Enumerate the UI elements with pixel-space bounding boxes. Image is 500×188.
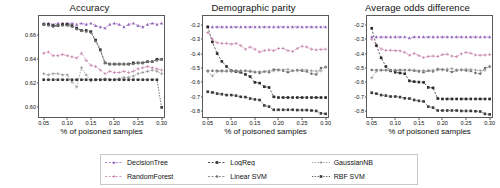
x-axis-tick-mark: [371, 117, 372, 120]
legend-item-linear-svm[interactable]: Linear SVM: [207, 173, 310, 180]
legend-marker-icon: [207, 173, 227, 180]
legend-marker-icon: [104, 159, 124, 166]
y-axis-tick-mark: [37, 83, 40, 84]
y-axis-tick-label: -0.8: [190, 108, 200, 114]
chart-title: Demographic parity: [172, 2, 335, 13]
legend-label: LogReg: [230, 159, 255, 166]
y-axis-tick-mark: [365, 111, 368, 112]
chart-panel-average-odds-difference: Average odds difference -0.2-0.3-0.4-0.5…: [336, 0, 499, 150]
chart-panel-demographic-parity: Demographic parity -0.2-0.3-0.4-0.5-0.6-…: [172, 0, 335, 150]
x-axis-tick-label: 0.30: [484, 120, 495, 126]
x-axis-tick-mark: [43, 117, 44, 120]
x-axis-tick-mark: [207, 117, 208, 120]
x-axis-tick-mark: [231, 117, 232, 120]
y-axis-tick-label: -0.4: [190, 51, 200, 57]
legend-item-gaussiannb[interactable]: GaussianNB: [311, 159, 414, 166]
y-axis-tick-label: -0.6: [354, 79, 364, 85]
series-line-randomforest: [372, 39, 490, 57]
series-layer: [367, 16, 492, 117]
x-axis-tick-label: 0.15: [249, 120, 260, 126]
y-axis-tick-mark: [365, 39, 368, 40]
x-axis-tick-label: 0.15: [413, 120, 424, 126]
y-axis-tick-label: -0.5: [354, 65, 364, 71]
y-axis-tick-mark: [365, 82, 368, 83]
x-axis-tick-label: 0.25: [297, 120, 308, 126]
legend-item-randomforest[interactable]: RandomForest: [104, 173, 207, 180]
y-axis-tick-mark: [365, 53, 368, 54]
axes-decorations: [39, 16, 164, 117]
series-layer: [39, 16, 164, 117]
x-axis-tick-label: 0.30: [320, 120, 331, 126]
x-axis-tick-label: 0.25: [133, 120, 144, 126]
series-line-gaussiannb: [44, 68, 162, 87]
legend-item-logreg[interactable]: LogReg: [207, 159, 310, 166]
plot-area: -0.2-0.3-0.4-0.5-0.6-0.7-0.80.050.100.15…: [202, 15, 329, 118]
series-layer: [203, 16, 328, 117]
y-axis-tick-label: -0.5: [190, 65, 200, 71]
legend-label: RandomForest: [127, 173, 173, 180]
series-line-randomforest: [208, 33, 326, 52]
series-line-rbf-svm: [44, 80, 162, 108]
legend-item-decisiontree[interactable]: DecisionTree: [104, 159, 207, 166]
x-axis-tick-mark: [489, 117, 490, 120]
x-axis-tick-mark: [395, 117, 396, 120]
x-axis-tick-label: 0.20: [437, 120, 448, 126]
x-axis-tick-mark: [278, 117, 279, 120]
plot-area: 0.600.620.640.660.050.100.150.200.250.30: [38, 15, 165, 118]
x-axis-tick-mark: [90, 117, 91, 120]
legend-marker-icon: [104, 173, 124, 180]
x-axis-tick-mark: [114, 117, 115, 120]
y-axis-tick-mark: [201, 39, 204, 40]
y-axis-tick-label: 0.66: [25, 32, 36, 38]
x-axis-tick-mark: [302, 117, 303, 120]
legend-item-rbf-svm[interactable]: RBF SVM: [311, 173, 414, 180]
series-line-logreg: [44, 24, 162, 64]
legend-label: Linear SVM: [230, 173, 267, 180]
legend-label: GaussianNB: [334, 159, 373, 166]
x-axis-tick-mark: [138, 117, 139, 120]
x-axis-tick-label: 0.30: [156, 120, 167, 126]
legend-marker-icon: [207, 159, 227, 166]
chart-title: Average odds difference: [336, 2, 499, 13]
x-axis-tick-mark: [161, 117, 162, 120]
y-axis-tick-mark: [365, 24, 368, 25]
legend-marker-icon: [311, 173, 331, 180]
y-axis-tick-label: -0.6: [190, 79, 200, 85]
x-axis-tick-label: 0.05: [202, 120, 213, 126]
y-axis-tick-label: 0.62: [25, 80, 36, 86]
x-axis-tick-mark: [442, 117, 443, 120]
x-axis-tick-label: 0.10: [226, 120, 237, 126]
y-axis-tick-label: -0.3: [190, 36, 200, 42]
y-axis-tick-label: -0.8: [354, 108, 364, 114]
y-axis-tick-label: -0.4: [354, 51, 364, 57]
y-axis-tick-mark: [201, 111, 204, 112]
x-axis-tick-mark: [325, 117, 326, 120]
figure-root: Accuracy 0.600.620.640.660.050.100.150.2…: [0, 0, 500, 188]
x-axis-tick-label: 0.25: [461, 120, 472, 126]
series-line-logreg: [372, 28, 490, 99]
y-axis-tick-label: -0.7: [354, 94, 364, 100]
x-axis-tick-label: 0.20: [109, 120, 120, 126]
y-axis-tick-mark: [201, 67, 204, 68]
x-axis-tick-mark: [67, 117, 68, 120]
y-axis-tick-label: -0.2: [354, 22, 364, 28]
x-axis-tick-mark: [466, 117, 467, 120]
x-axis-label: % of poisoned samples: [202, 127, 329, 136]
chart-title: Accuracy: [8, 2, 171, 13]
y-axis-tick-label: 0.60: [25, 104, 36, 110]
legend-marker-icon: [311, 159, 331, 166]
y-axis-tick-label: -0.7: [190, 94, 200, 100]
chart-panel-accuracy: Accuracy 0.600.620.640.660.050.100.150.2…: [8, 0, 171, 150]
plot-area: -0.2-0.3-0.4-0.5-0.6-0.7-0.80.050.100.15…: [366, 15, 493, 118]
x-axis-tick-label: 0.05: [366, 120, 377, 126]
series-line-logreg: [208, 27, 326, 98]
x-axis-label: % of poisoned samples: [38, 127, 165, 136]
y-axis-tick-label: -0.2: [190, 22, 200, 28]
x-axis-tick-label: 0.10: [62, 120, 73, 126]
x-axis-tick-label: 0.20: [273, 120, 284, 126]
x-axis-tick-mark: [418, 117, 419, 120]
x-axis-label: % of poisoned samples: [366, 127, 493, 136]
legend-label: DecisionTree: [127, 159, 168, 166]
y-axis-tick-mark: [201, 24, 204, 25]
legend-label: RBF SVM: [334, 173, 365, 180]
